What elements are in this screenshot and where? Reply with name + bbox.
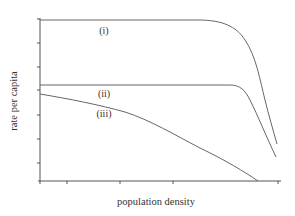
chart-svg: (i) (ii) (iii) population density rate p… xyxy=(0,0,295,216)
curve-i-label: (i) xyxy=(99,25,108,37)
curve-i xyxy=(40,20,277,144)
y-axis-label: rate per capita xyxy=(8,71,19,131)
x-axis-label: population density xyxy=(117,196,196,207)
curve-ii xyxy=(40,85,276,157)
curve-ii-label: (ii) xyxy=(98,88,110,100)
chart: (i) (ii) (iii) population density rate p… xyxy=(0,0,295,216)
curve-iii xyxy=(40,94,258,181)
curve-iii-label: (iii) xyxy=(97,108,112,120)
